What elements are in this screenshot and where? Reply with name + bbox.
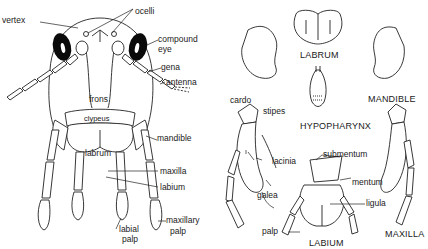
label-labial-palp-1: labial [119,225,139,234]
label-galea: galea [257,191,278,200]
label-palp: palp [262,227,278,236]
label-ligula: ligula [366,199,386,208]
caption-labrum: LABRUM [300,50,339,60]
label-vertex: vertex [2,16,25,25]
label-stipes: stipes [263,107,285,116]
label-labium: labium [160,183,185,192]
label-submentum: submentum [323,150,367,159]
label-lacinia: lacinia [272,157,296,166]
labial-palps [72,152,128,220]
caption-labium: LABIUM [309,238,344,248]
mandible-left-part [242,26,277,78]
caption-mandible: MANDIBLE [368,94,416,104]
label-mentum: mentum [352,178,383,187]
caption-maxilla: MAXILLA [385,229,424,239]
label-maxilla: maxilla [160,167,186,176]
label-frons: frons [89,95,108,104]
label-maxillary-palp-1: maxillary [166,216,200,225]
mandible-right-part [374,27,405,78]
insect-mouthparts-diagram: vertex ocelli compound eye gena antenna … [0,0,428,249]
label-ocelli: ocelli [135,7,154,16]
label-maxillary-palp-2: palp [170,227,186,236]
label-cardo: cardo [230,96,251,105]
hypopharynx-part [310,70,326,107]
labium-part [282,156,358,235]
maxilla-left-part [226,104,276,228]
label-compound-eye-2: eye [158,45,172,54]
label-labrum: labrum [85,149,111,158]
label-compound-eye-1: compound [158,35,198,44]
label-antenna: antenna [166,78,197,87]
label-labial-palp-2: palp [122,235,138,244]
label-gena: gena [161,63,180,72]
label-mandible: mandible [157,134,192,143]
label-clypeus: clypeus [84,114,109,123]
caption-hypopharynx: HYPOPHARYNX [300,121,371,131]
